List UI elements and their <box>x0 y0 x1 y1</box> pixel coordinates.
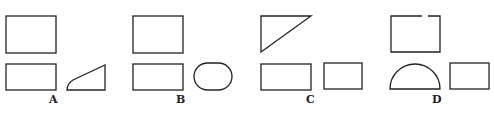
option-a-wedge <box>67 65 105 90</box>
option-c-triangle <box>261 16 311 52</box>
option-b <box>133 16 232 90</box>
option-b-top-rectangle <box>133 16 183 53</box>
option-b-oval <box>194 63 232 90</box>
option-c-bottom-rectangle <box>261 64 311 90</box>
option-d <box>390 16 489 89</box>
option-b-bottom-rectangle <box>133 64 183 90</box>
option-d-rectangle <box>450 63 489 89</box>
option-d-semicircle <box>390 64 440 89</box>
option-d-label: D <box>432 93 442 106</box>
option-c <box>261 16 362 90</box>
option-c-small-rectangle <box>324 63 362 89</box>
option-a-bottom-rectangle <box>6 64 56 90</box>
option-a <box>6 16 105 90</box>
option-a-top-rectangle <box>6 16 56 53</box>
option-d-top-rectangle <box>391 16 440 52</box>
option-b-label: B <box>176 93 185 106</box>
option-a-label: A <box>49 93 58 106</box>
option-c-label: C <box>306 93 315 106</box>
figure-canvas <box>0 0 494 113</box>
